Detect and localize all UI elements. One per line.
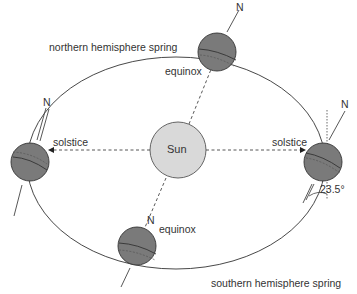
north-label-top: N (236, 2, 244, 13)
label-tilt-angle: 23.5° (320, 184, 345, 195)
label-solstice-right: solstice (272, 137, 307, 148)
label-equinox-bottom: equinox (159, 224, 196, 235)
earth-left-solstice (11, 108, 49, 216)
label-southern-spring: southern hemisphere spring (211, 278, 341, 289)
label-northern-spring: northern hemisphere spring (49, 42, 177, 53)
earth-bottom-equinox (118, 227, 156, 287)
label-equinox-top: equinox (165, 66, 202, 77)
north-label-left: N (43, 97, 51, 108)
north-label-bottom: N (147, 215, 155, 226)
north-label-right: N (341, 99, 349, 110)
label-sun: Sun (167, 144, 187, 155)
earth-top-equinox (198, 10, 239, 71)
label-solstice-left: solstice (53, 137, 88, 148)
